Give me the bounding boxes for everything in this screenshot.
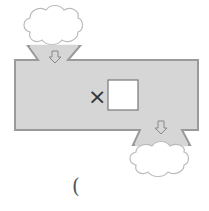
- input-cloud: [24, 6, 83, 45]
- multiply-sign: ×: [88, 86, 106, 108]
- machine-body: [15, 46, 198, 145]
- output-cloud: [130, 142, 189, 177]
- operand-box[interactable]: [108, 80, 138, 110]
- answer-paren: (: [72, 176, 80, 196]
